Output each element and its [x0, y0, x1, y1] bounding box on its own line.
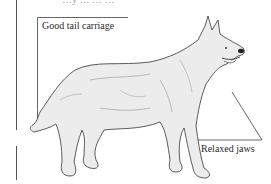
label-relaxed-jaws: Relaxed jaws	[201, 143, 255, 154]
dog-illustration	[0, 0, 271, 184]
dog-diagram: …y … … … Good tail carriage Relaxed jaws	[0, 0, 271, 184]
label-tail-carriage: Good tail carriage	[42, 20, 114, 31]
